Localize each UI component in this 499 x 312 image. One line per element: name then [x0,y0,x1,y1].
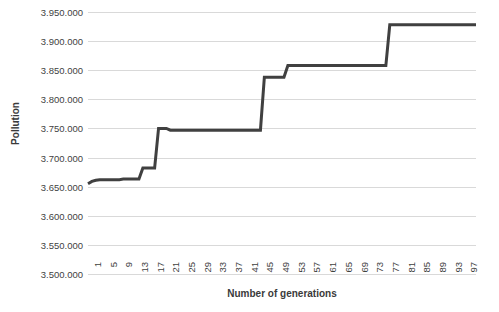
x-tick-label: 89 [437,262,448,273]
x-tick-label: 21 [170,262,181,273]
x-tick-label: 61 [327,262,338,273]
x-tick-label: 9 [123,262,134,267]
y-tick-label: 3.700.000 [26,152,83,163]
x-tick-label: 85 [421,262,432,273]
y-tick-label: 3.850.000 [26,65,83,76]
x-axis-title: Number of generations [88,288,476,299]
y-tick-label: 3.800.000 [26,94,83,105]
x-tick-label: 5 [108,262,119,267]
x-tick-label: 49 [280,262,291,273]
x-tick-label: 53 [296,262,307,273]
x-tick-label: 17 [155,262,166,273]
x-tick-label: 65 [343,262,354,273]
y-tick-label: 3.950.000 [26,7,83,18]
x-tick-label: 33 [217,262,228,273]
x-tick-label: 77 [390,262,401,273]
x-tick-label: 45 [264,262,275,273]
y-axis-tick-labels: 3.950.0003.900.0003.850.0003.800.0003.75… [26,12,83,274]
x-tick-label: 69 [359,262,370,273]
plot-area [88,12,476,274]
x-tick-label: 41 [249,262,260,273]
pollution-line-chart: Pollution 3.950.0003.900.0003.850.0003.8… [0,0,499,312]
y-tick-label: 3.750.000 [26,123,83,134]
y-tick-label: 3.550.000 [26,239,83,250]
series-pollution [88,12,476,274]
x-tick-label: 29 [202,262,213,273]
y-tick-label: 3.650.000 [26,181,83,192]
x-tick-label: 1 [92,262,103,267]
series-line-path [88,25,476,184]
y-tick-label: 3.500.000 [26,269,83,280]
x-tick-label: 37 [233,262,244,273]
y-tick-label: 3.600.000 [26,210,83,221]
x-tick-label: 57 [311,262,322,273]
x-tick-label: 13 [139,262,150,273]
y-axis-title: Pollution [10,79,21,169]
x-tick-label: 81 [406,262,417,273]
x-tick-label: 93 [453,262,464,273]
x-tick-label: 25 [186,262,197,273]
y-tick-label: 3.900.000 [26,36,83,47]
x-tick-label: 97 [468,262,479,273]
x-tick-label: 73 [374,262,385,273]
